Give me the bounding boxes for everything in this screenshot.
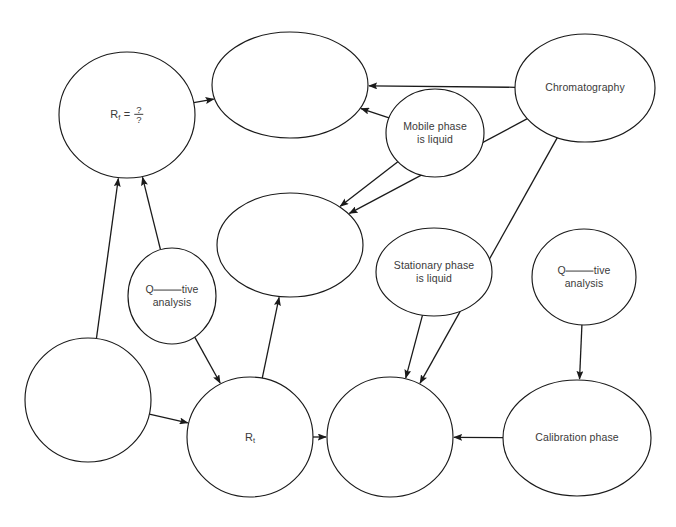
node-middle-blank[interactable] [217,193,363,297]
node-stationary-phase[interactable] [376,228,492,316]
node-calibration-phase[interactable] [503,380,651,496]
concept-map-canvas: Rf = ??Mobile phase is liquidChromatogra… [0,0,676,527]
edge-rt-to-middle-blank [262,297,279,378]
edge-chromatography-to-top-blank [369,86,515,87]
node-chromatography[interactable] [515,34,655,142]
edge-quant-left-to-rf [143,177,161,249]
diagram-svg [0,0,676,527]
node-bottom-left-blank[interactable] [25,338,151,462]
node-quant-left[interactable] [128,248,216,344]
edge-mobile-phase-to-middle-blank [340,162,398,206]
edge-stationary-phase-to-bottom-mid-blank [406,315,423,378]
node-rt[interactable] [187,377,313,497]
node-mobile-phase[interactable] [386,89,484,177]
edge-quant-right-to-calibration-phase [580,325,582,379]
edge-bottom-left-blank-to-rt [149,414,187,423]
edge-quant-left-to-rt [195,337,220,383]
node-rf[interactable] [59,52,195,178]
node-bottom-mid-blank[interactable] [327,377,453,497]
node-layer [25,32,655,497]
edge-bottom-left-blank-to-rf [96,178,118,338]
node-top-blank[interactable] [212,32,368,138]
edge-mobile-phase-to-top-blank [361,109,389,118]
edge-rf-to-top-blank [194,99,214,103]
node-quant-right[interactable] [532,229,636,325]
